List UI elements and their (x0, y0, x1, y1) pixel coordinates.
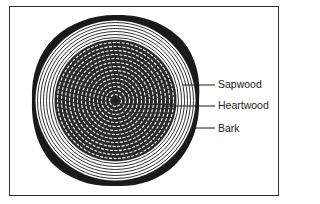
heartwood (55, 40, 177, 162)
label-sapwood: Sapwood (218, 79, 262, 90)
label-bark: Bark (218, 123, 240, 134)
label-heartwood: Heartwood (218, 100, 269, 111)
